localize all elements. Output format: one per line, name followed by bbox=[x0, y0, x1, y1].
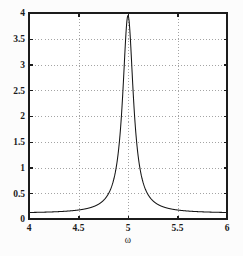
x-axis-title: ω bbox=[125, 235, 131, 245]
y-tick-label: 2.5 bbox=[13, 86, 25, 96]
axes-background bbox=[29, 13, 227, 219]
y-tick-label: 0 bbox=[20, 214, 25, 224]
resonance-plot: 00.511.522.533.54 44.555.56 ω bbox=[0, 0, 243, 256]
figure-container: 00.511.522.533.54 44.555.56 ω bbox=[0, 0, 243, 256]
x-tick-label: 6 bbox=[225, 223, 230, 233]
x-tick-label: 4.5 bbox=[73, 223, 85, 233]
y-tick-label: 3.5 bbox=[13, 34, 25, 44]
y-tick-label: 4 bbox=[20, 8, 25, 18]
y-tick-label: 1.5 bbox=[13, 137, 25, 147]
x-tick-label: 5.5 bbox=[172, 223, 184, 233]
x-tick-label: 4 bbox=[27, 223, 32, 233]
y-tick-label: 2 bbox=[20, 111, 25, 121]
y-tick-label: 1 bbox=[20, 163, 25, 173]
y-tick-label: 0.5 bbox=[13, 189, 25, 199]
y-tick-label: 3 bbox=[20, 60, 25, 70]
x-tick-label: 5 bbox=[126, 223, 131, 233]
